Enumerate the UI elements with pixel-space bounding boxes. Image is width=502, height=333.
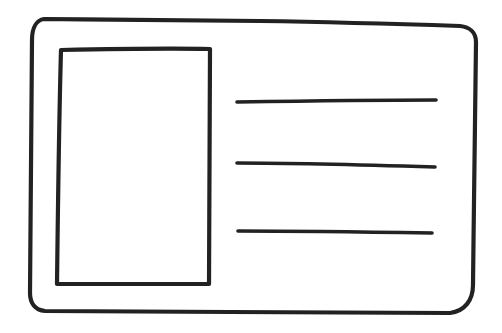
wireframe-canvas — [0, 0, 502, 333]
text-line-3 — [238, 231, 432, 233]
card-wireframe — [0, 0, 502, 333]
text-line-2 — [237, 163, 435, 167]
image-placeholder — [57, 49, 210, 284]
text-line-1 — [237, 100, 436, 102]
